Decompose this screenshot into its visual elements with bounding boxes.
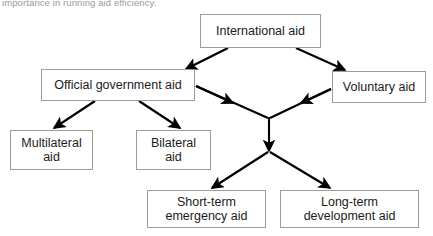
edge-official-to-multilateral bbox=[54, 101, 95, 128]
node-voluntary-aid[interactable]: Voluntary aid bbox=[332, 71, 426, 103]
edge-international-to-official bbox=[186, 48, 228, 69]
diagram-canvas: importance in running aid efficiency. In… bbox=[0, 0, 433, 236]
edge-official-to-junction-head bbox=[196, 86, 233, 103]
node-short-term-emergency-aid[interactable]: Short-term emergency aid bbox=[147, 190, 266, 228]
edge-voluntary-to-junction bbox=[270, 89, 331, 118]
node-multilateral-aid[interactable]: Multilateral aid bbox=[10, 130, 93, 170]
edge-voluntary-to-junction-head bbox=[301, 89, 331, 103]
node-short-term-emergency-aid-label: Short-term emergency aid bbox=[166, 195, 248, 224]
edge-official-to-bilateral bbox=[139, 101, 180, 128]
node-bilateral-aid[interactable]: Bilateral aid bbox=[136, 130, 211, 170]
node-multilateral-aid-label: Multilateral aid bbox=[21, 136, 81, 165]
edge-split-to-long-term bbox=[270, 152, 330, 188]
node-long-term-development-aid[interactable]: Long-term development aid bbox=[280, 190, 419, 228]
node-long-term-development-aid-label: Long-term development aid bbox=[304, 195, 396, 224]
node-international-aid-label: International aid bbox=[216, 24, 305, 39]
edge-international-to-voluntary bbox=[296, 48, 345, 70]
edge-official-to-junction bbox=[196, 86, 268, 118]
node-bilateral-aid-label: Bilateral aid bbox=[151, 136, 196, 165]
node-official-government-aid[interactable]: Official government aid bbox=[41, 69, 195, 101]
edge-split-to-short-term bbox=[212, 152, 268, 188]
node-international-aid[interactable]: International aid bbox=[200, 14, 321, 48]
page-caption: importance in running aid efficiency. bbox=[2, 0, 262, 8]
node-official-government-aid-label: Official government aid bbox=[54, 78, 182, 93]
node-voluntary-aid-label: Voluntary aid bbox=[343, 80, 415, 95]
